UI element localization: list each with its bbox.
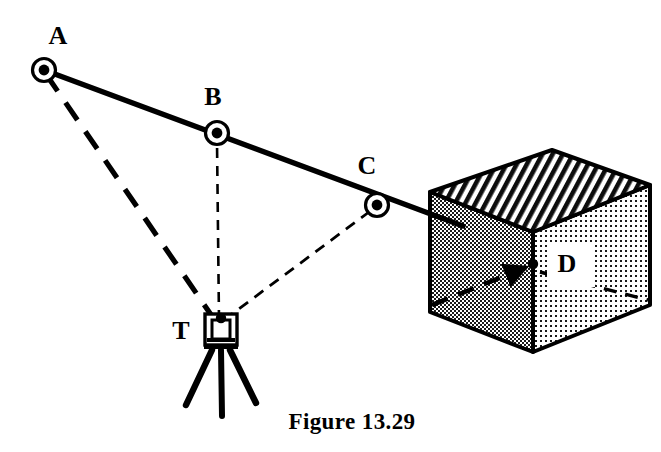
point-label-b: B: [204, 82, 221, 111]
instrument-horizontal-plate: [207, 338, 235, 342]
sight-line-t-to-c: [224, 212, 369, 320]
station-marker-b: [206, 122, 229, 145]
theodolite: [186, 313, 256, 416]
sight-line-t-to-a: [50, 80, 216, 322]
point-label-t: T: [172, 316, 189, 345]
sight-line-t-to-b: [217, 142, 219, 320]
point-label-c: C: [358, 151, 377, 180]
station-marker-d: [528, 259, 538, 269]
point-label-d: D: [558, 249, 577, 278]
cube-building: [430, 150, 650, 352]
station-marker-a: [33, 59, 56, 82]
point-label-a: A: [49, 21, 68, 50]
figure-13-29: A B C D T Figure 13.29: [0, 0, 661, 452]
figure-canvas: A B C D T Figure 13.29: [0, 0, 661, 452]
figure-caption: Figure 13.29: [288, 409, 415, 434]
instrument-telescope: [216, 313, 226, 323]
tripod-leg-right: [230, 350, 256, 403]
station-marker-c: [366, 194, 389, 217]
tripod-leg-center: [221, 350, 222, 416]
tripod-leg-left: [186, 350, 212, 405]
traverse-line-a-to-d: [44, 70, 463, 226]
